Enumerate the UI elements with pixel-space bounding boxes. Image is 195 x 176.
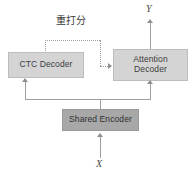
ctc-decoder-node: CTC Decoder: [8, 52, 84, 78]
input-to-encoder-line: [100, 137, 101, 158]
encoder-stem-line: [100, 99, 101, 109]
attention-input-arrowhead-icon: [147, 80, 153, 84]
rescore-dotted-descender: [100, 40, 101, 66]
rescore-arrowhead-icon: [108, 63, 112, 69]
ctc-decoder-label: CTC Decoder: [19, 60, 72, 70]
encoder-input-arrowhead-icon: [97, 133, 103, 137]
attention-decoder-label-line2: Decoder: [134, 65, 167, 75]
encoder-to-attention-riser: [150, 84, 151, 99]
output-label: Y: [146, 3, 152, 14]
shared-encoder-node: Shared Encoder: [62, 109, 139, 131]
ctc-input-arrowhead-icon: [22, 78, 28, 82]
architecture-diagram: Y 重打分 CTC Decoder Attention Decoder Shar…: [0, 0, 195, 176]
attention-decoder-node: Attention Decoder: [113, 49, 188, 81]
input-label: X: [96, 158, 102, 169]
encoder-to-ctc-riser: [25, 82, 26, 99]
encoder-bus-line: [25, 99, 151, 100]
rescore-label: 重打分: [56, 12, 86, 27]
output-arrowhead-icon: [147, 19, 153, 23]
shared-encoder-label: Shared Encoder: [69, 115, 132, 125]
attention-to-output-line: [150, 22, 151, 49]
rescore-dotted-top: [45, 40, 100, 41]
